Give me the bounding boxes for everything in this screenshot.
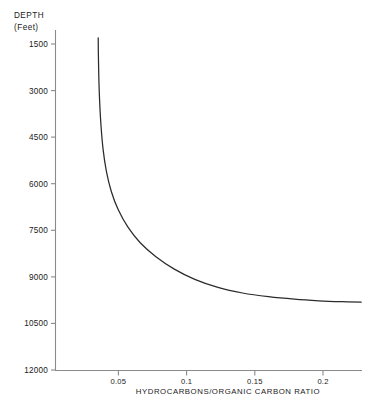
y-tick-label: 6000 [29,180,48,189]
figure-container: DEPTH (Feet) 1500 3000 4500 6000 7500 90… [0,0,372,418]
x-axis-title: HYDROCARBONS/ORGANIC CARBON RATIO [136,387,320,396]
x-tick-label: 0.15 [247,377,263,386]
y-tick-label: 1500 [29,40,48,49]
y-tick-label: 12000 [24,366,48,375]
x-tick-label: 0.2 [317,377,328,386]
y-axis-units: (Feet) [14,23,39,32]
y-tick-label: 4500 [29,133,48,142]
y-tick-label: 9000 [29,273,48,282]
y-tick-label: 7500 [29,226,48,235]
depth-vs-hydrocarbon-ratio-chart: DEPTH (Feet) 1500 3000 4500 6000 7500 90… [0,0,372,418]
y-tick-label: 10500 [24,319,48,328]
data-series-curve [98,38,361,302]
y-axis-ticks [51,44,56,370]
x-tick-label: 0.05 [111,377,127,386]
y-tick-label: 3000 [29,87,48,96]
x-tick-label: 0.1 [181,377,192,386]
x-axis-ticks [118,371,323,376]
y-axis-title: DEPTH [14,11,44,20]
